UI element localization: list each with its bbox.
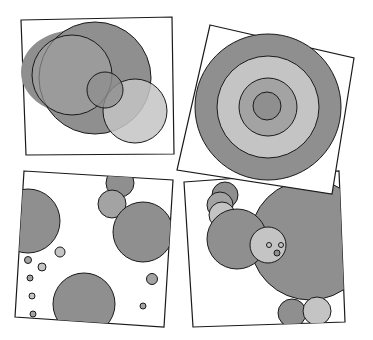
illustration <box>0 0 373 340</box>
panel-overlapping-circles <box>21 17 174 155</box>
panel-face-circles <box>184 171 370 327</box>
panel-scattered-circles <box>0 169 173 335</box>
panel-concentric-circles <box>177 25 354 194</box>
